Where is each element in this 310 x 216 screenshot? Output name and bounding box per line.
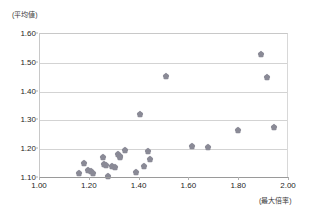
gridline (40, 63, 287, 64)
x-tick-label: 1.20 (81, 181, 97, 190)
y-tick-label: 1.30 (2, 115, 36, 124)
y-tick-mark (35, 148, 38, 149)
data-point (75, 170, 82, 177)
x-axis-line (39, 177, 288, 178)
y-tick-mark (35, 33, 38, 34)
data-point (141, 162, 148, 169)
data-point (144, 147, 151, 154)
data-point (89, 170, 96, 177)
y-tick-label: 1.50 (2, 57, 36, 66)
gridline (40, 149, 287, 150)
data-point (163, 72, 170, 79)
x-tick-label: 1.60 (181, 181, 197, 190)
y-tick-label: 1.40 (2, 86, 36, 95)
y-tick-mark (35, 119, 38, 120)
x-tick-mark (288, 177, 289, 180)
y-tick-mark (35, 61, 38, 62)
x-tick-mark (39, 177, 40, 180)
data-point (121, 147, 128, 154)
y-tick-mark (35, 90, 38, 91)
data-point (133, 168, 140, 175)
y-tick-label: 1.60 (2, 29, 36, 38)
data-point (235, 127, 242, 134)
x-tick-label: 1.80 (230, 181, 246, 190)
x-tick-label: 1.40 (131, 181, 147, 190)
data-point (270, 123, 277, 130)
x-tick-mark (188, 177, 189, 180)
data-point (104, 172, 111, 179)
data-point (81, 159, 88, 166)
x-axis-label: (最大倍率) (259, 195, 292, 205)
gridline (40, 92, 287, 93)
data-point (264, 74, 271, 81)
x-tick-mark (139, 177, 140, 180)
x-tick-mark (238, 177, 239, 180)
plot-area (39, 33, 288, 177)
scatter-chart: (平均値) 1.101.201.301.401.501.60 1.001.201… (0, 0, 310, 216)
data-point (136, 111, 143, 118)
data-point (258, 51, 265, 58)
gridline (40, 120, 287, 121)
data-point (112, 163, 119, 170)
data-point (99, 153, 106, 160)
y-tick-label: 1.20 (2, 144, 36, 153)
y-tick-mark (35, 177, 38, 178)
x-tick-label: 1.00 (31, 181, 47, 190)
x-tick-label: 2.00 (280, 181, 296, 190)
x-tick-mark (89, 177, 90, 180)
data-point (147, 155, 154, 162)
